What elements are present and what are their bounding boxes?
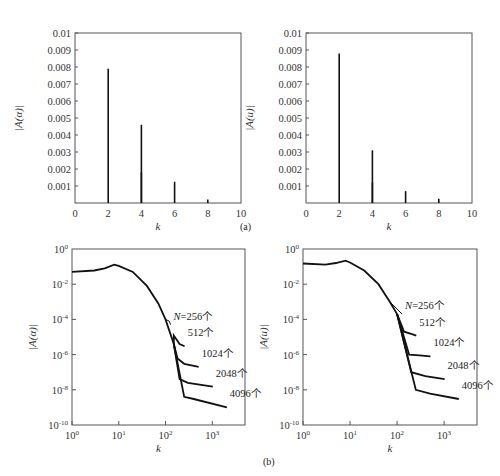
svg-text:10: 10 (467, 208, 478, 219)
svg-text:10-2: 10-2 (283, 278, 300, 290)
caption-b: (b) (263, 456, 275, 467)
svg-text:101: 101 (112, 429, 127, 441)
series-label: 1024个 (433, 337, 465, 348)
svg-text:0.001: 0.001 (278, 181, 302, 192)
svg-text:0.004: 0.004 (47, 130, 71, 141)
series-label: N=256个 (173, 311, 214, 322)
svg-text:0.003: 0.003 (278, 147, 302, 158)
svg-text:2: 2 (106, 208, 111, 219)
svg-text:0.005: 0.005 (47, 113, 71, 124)
svg-text:0.009: 0.009 (47, 45, 71, 56)
svg-text:0.008: 0.008 (47, 62, 71, 73)
svg-text:101: 101 (343, 429, 358, 441)
svg-text:0.01: 0.01 (284, 28, 302, 39)
chart-a-right: 02468100.0010.0020.0030.0040.0050.0060.0… (243, 28, 477, 233)
series-label: 2048个 (448, 360, 480, 371)
figure: 02468100.0010.0020.0030.0040.0050.0060.0… (0, 0, 500, 476)
svg-text:102: 102 (159, 429, 174, 441)
svg-text:0.002: 0.002 (47, 164, 71, 175)
series-label: 512个 (188, 327, 215, 338)
svg-text:100: 100 (54, 243, 69, 255)
svg-text:8: 8 (436, 208, 441, 219)
svg-text:0.007: 0.007 (278, 79, 302, 90)
svg-text:10-2: 10-2 (52, 278, 69, 290)
svg-text:103: 103 (205, 429, 220, 441)
svg-text:100: 100 (296, 429, 311, 441)
series-label: 1024个 (202, 348, 234, 359)
svg-text:6: 6 (403, 208, 408, 219)
svg-text:k: k (156, 442, 162, 454)
chart-b-right: 10010110210310010-210-410-610-810-10N=25… (257, 243, 494, 454)
curve-common (72, 265, 174, 344)
svg-text:0.001: 0.001 (47, 181, 71, 192)
svg-text:6: 6 (172, 208, 177, 219)
svg-text:0.008: 0.008 (278, 62, 302, 73)
svg-text:0: 0 (72, 208, 77, 219)
series-label: 2048个 (216, 368, 248, 379)
svg-text:10-4: 10-4 (52, 313, 69, 325)
svg-text:102: 102 (390, 429, 405, 441)
svg-text:4: 4 (370, 208, 376, 219)
svg-text:100: 100 (65, 429, 80, 441)
svg-text:0.006: 0.006 (278, 96, 302, 107)
svg-text:k: k (388, 442, 394, 454)
svg-text:|A(α)|: |A(α)| (12, 105, 25, 131)
svg-text:10-6: 10-6 (52, 349, 69, 361)
svg-text:10-8: 10-8 (283, 384, 300, 396)
svg-text:8: 8 (205, 208, 210, 219)
svg-text:|A(u)|: |A(u)| (243, 105, 256, 131)
curve-series (174, 336, 185, 347)
svg-text:0.005: 0.005 (278, 113, 302, 124)
svg-text:|A(α)|: |A(α)| (26, 324, 39, 350)
caption-a: (a) (240, 221, 251, 232)
svg-text:100: 100 (285, 243, 300, 255)
svg-text:10-4: 10-4 (283, 313, 300, 325)
svg-text:k: k (387, 220, 393, 232)
svg-text:10-6: 10-6 (283, 349, 300, 361)
svg-text:0.003: 0.003 (47, 147, 71, 158)
svg-text:103: 103 (437, 429, 452, 441)
series-label: N=256个 (404, 300, 445, 311)
chart-b-left: 10010110210310010-210-410-610-810-10N=25… (26, 243, 262, 454)
chart-a-left: 02468100.0010.0020.0030.0040.0050.0060.0… (12, 28, 246, 233)
svg-text:0.004: 0.004 (278, 130, 302, 141)
svg-text:0.009: 0.009 (278, 45, 302, 56)
svg-text:0.007: 0.007 (47, 79, 71, 90)
svg-text:|A(u)|: |A(u)| (257, 324, 270, 350)
svg-text:0.006: 0.006 (47, 96, 71, 107)
svg-text:2: 2 (337, 208, 342, 219)
svg-text:4: 4 (139, 208, 145, 219)
svg-text:0: 0 (303, 208, 308, 219)
svg-text:10: 10 (236, 208, 247, 219)
svg-text:0.01: 0.01 (53, 28, 71, 39)
curve-common (303, 261, 397, 315)
series-label: 4096个 (230, 388, 262, 399)
svg-text:0.002: 0.002 (278, 164, 302, 175)
svg-text:10-8: 10-8 (52, 384, 69, 396)
series-label: 512个 (419, 317, 446, 328)
svg-text:k: k (156, 220, 162, 232)
series-label: 4096个 (462, 380, 494, 391)
